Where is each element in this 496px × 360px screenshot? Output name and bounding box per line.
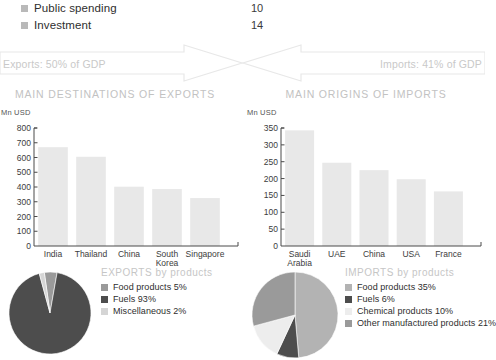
- y-axis-tick-label: 300: [252, 140, 278, 150]
- pie-legend-label: Food products 35%: [357, 282, 436, 292]
- main-destinations-of-exports-graphic: [0, 118, 242, 268]
- pie-legend-item: Chemical products 10%: [345, 305, 485, 317]
- exports-pie-legend: EXPORTS by products Food products 5%Fuel…: [101, 267, 241, 317]
- imports-bar-chart: 050100150200250300350Saudi ArabiaUAEChin…: [243, 118, 485, 268]
- gdp-row-value: 14: [251, 19, 263, 31]
- exports-gdp-label: Exports: 50% of GDP: [3, 58, 106, 70]
- exports-chart-title: MAIN DESTINATIONS OF EXPORTS: [0, 88, 236, 100]
- imports-pie-legend: IMPORTS by products Food products 35%Fue…: [345, 267, 485, 329]
- y-axis-tick-label: 200: [252, 174, 278, 184]
- pie-legend-label: Food products 5%: [113, 282, 187, 292]
- bar: [38, 147, 68, 246]
- gdp-row-value: 10: [251, 2, 263, 14]
- y-axis-tick-label: 400: [5, 182, 31, 192]
- imports-axis-unit: Mn USD: [247, 108, 277, 117]
- panel-imports: MAIN ORIGINS OF IMPORTS Mn USD 050100150…: [243, 84, 485, 348]
- y-axis-tick-label: 600: [5, 153, 31, 163]
- pie-legend-swatch-icon: [101, 308, 108, 315]
- pie-legend-swatch-icon: [345, 308, 352, 315]
- y-axis-tick-label: 700: [5, 138, 31, 148]
- bar: [152, 189, 182, 246]
- imports-gdp-label: Imports: 41% of GDP: [380, 58, 482, 70]
- bar: [285, 130, 314, 246]
- y-axis-tick-label: 100: [252, 207, 278, 217]
- pie-legend-item: Fuels 6%: [345, 293, 485, 305]
- y-axis-tick-label: 200: [5, 212, 31, 222]
- bar: [322, 163, 351, 246]
- y-axis-tick-label: 500: [5, 167, 31, 177]
- trade-balance-band: Exports: 50% of GDP Imports: 41% of GDP: [0, 44, 485, 82]
- bar: [114, 187, 144, 246]
- bar: [359, 170, 388, 246]
- pie-legend-item: Food products 35%: [345, 281, 485, 293]
- pie-legend-item: Food products 5%: [101, 281, 241, 293]
- exports-bar-chart: 0100200300400500600700800IndiaThailandCh…: [0, 118, 242, 268]
- exports-axis-unit: Mn USD: [1, 108, 31, 117]
- exports-pie-area: EXPORTS by products Food products 5%Fuel…: [0, 267, 242, 348]
- exports-by-products-graphic: [6, 269, 93, 356]
- y-axis-tick-label: 800: [5, 123, 31, 133]
- imports-chart-title: MAIN ORIGINS OF IMPORTS: [245, 88, 487, 100]
- y-axis-tick-label: 250: [252, 157, 278, 167]
- gdp-row-label: Investment: [34, 19, 91, 31]
- bar: [190, 198, 220, 246]
- imports-pie-legend-title: IMPORTS by products: [345, 267, 485, 278]
- pie-legend-label: Chemical products 10%: [357, 306, 453, 316]
- pie-legend-swatch-icon: [345, 296, 352, 303]
- pie-legend-item: Fuels 93%: [101, 293, 241, 305]
- pie-legend-label: Miscellaneous 2%: [113, 306, 186, 316]
- gdp-row-label: Public spending: [34, 2, 117, 14]
- pie-legend-label: Fuels 93%: [113, 294, 156, 304]
- gdp-swatch-icon: [21, 22, 28, 29]
- gdp-components-rows: Public spending 10 Investment 14: [0, 0, 485, 42]
- y-axis-tick-label: 100: [5, 226, 31, 236]
- y-axis-tick-label: 50: [252, 224, 278, 234]
- gdp-swatch-icon: [21, 5, 28, 12]
- bar: [76, 157, 106, 246]
- pie-legend-swatch-icon: [345, 284, 352, 291]
- pie-legend-item: Other manufactured products 21%: [345, 317, 485, 329]
- pie-legend-swatch-icon: [345, 320, 352, 327]
- pie-legend-swatch-icon: [101, 296, 108, 303]
- pie-slice: [295, 272, 338, 358]
- panel-exports: MAIN DESTINATIONS OF EXPORTS Mn USD 0100…: [0, 84, 242, 348]
- pie-legend-swatch-icon: [101, 284, 108, 291]
- y-axis-tick-label: 300: [5, 197, 31, 207]
- main-origins-of-imports-graphic: [243, 118, 485, 268]
- exports-pie-legend-title: EXPORTS by products: [101, 267, 241, 278]
- y-axis-tick-label: 150: [252, 190, 278, 200]
- imports-by-products-graphic: [247, 269, 340, 360]
- pie-legend-label: Fuels 6%: [357, 294, 395, 304]
- pie-legend-label: Other manufactured products 21%: [357, 318, 496, 328]
- imports-pie-area: IMPORTS by products Food products 35%Fue…: [243, 267, 485, 348]
- bar: [434, 191, 463, 246]
- x-axis-tick-label: Singapore: [179, 250, 231, 259]
- bar: [397, 179, 426, 246]
- pie-legend-item: Miscellaneous 2%: [101, 305, 241, 317]
- y-axis-tick-label: 350: [252, 123, 278, 133]
- x-axis-tick-label: France: [422, 250, 474, 259]
- gdp-row-investment: Investment 14: [0, 15, 485, 35]
